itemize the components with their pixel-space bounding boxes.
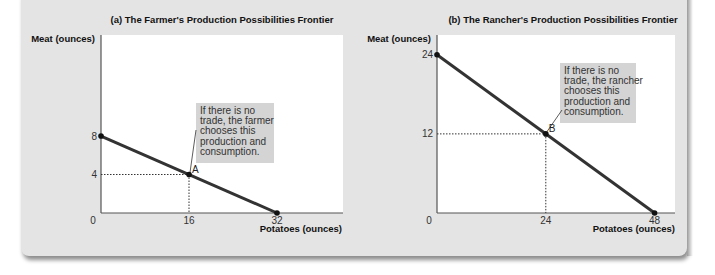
chart-rancher-ppf: (b) The Rancher's Production Possibiliti… (367, 14, 678, 234)
chart-title: (a) The Farmer's Production Possibilitie… (111, 14, 334, 25)
y-tick-label: 12 (422, 128, 434, 139)
ppf-endpoint (274, 210, 280, 216)
x-tick-label: 16 (183, 215, 195, 226)
x-tick-label: 32 (271, 215, 283, 226)
x-axis-label: Potatoes (ounces) (593, 223, 675, 234)
ppf-endpoint (434, 52, 440, 58)
annotation-line: consumption. (200, 146, 259, 157)
marked-point (543, 131, 549, 137)
y-axis-label: Meat (ounces) (31, 33, 95, 44)
point-label: A (192, 164, 199, 175)
y-axis-label: Meat (ounces) (367, 33, 431, 44)
plot-area (437, 35, 675, 213)
ppf-endpoint (98, 133, 104, 139)
origin-tick-label: 0 (90, 215, 96, 226)
x-tick-label: 24 (540, 215, 552, 226)
origin-tick-label: 0 (426, 215, 432, 226)
chart-title: (b) The Rancher's Production Possibiliti… (448, 14, 678, 25)
ppf-endpoint (652, 210, 658, 216)
annotation-line: consumption. (564, 106, 623, 117)
ppf-figure: (a) The Farmer's Production Possibilitie… (0, 0, 715, 275)
chart-farmer-ppf: (a) The Farmer's Production Possibilitie… (31, 14, 343, 234)
y-tick-label: 24 (422, 49, 434, 60)
y-tick-label: 8 (91, 131, 97, 142)
point-label: B (549, 123, 556, 134)
marked-point (186, 172, 192, 178)
y-tick-label: 4 (91, 169, 97, 180)
x-tick-label: 48 (649, 215, 661, 226)
